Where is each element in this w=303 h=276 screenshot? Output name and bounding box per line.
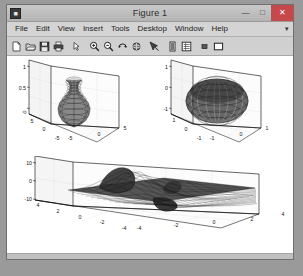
svg-text:0: 0 (29, 178, 32, 184)
menu-item-help[interactable]: Help (207, 22, 231, 36)
svg-text:-1: -1 (197, 135, 202, 141)
svg-text:0: 0 (21, 109, 28, 114)
svg-text:1: 1 (173, 117, 176, 123)
svg-text:-5: -5 (55, 135, 60, 141)
new-figure-icon[interactable] (10, 40, 23, 53)
matlab-app-icon: ■ (10, 8, 21, 19)
window-controls: — □ ✕ (237, 5, 293, 21)
insert-colorbar-icon[interactable] (166, 40, 179, 53)
maximize-icon: □ (260, 9, 265, 17)
menu-bar: File Edit View Insert Tools Desktop Wind… (7, 22, 293, 37)
menu-item-view[interactable]: View (54, 22, 79, 36)
svg-text:5: 5 (31, 118, 34, 124)
svg-text:4: 4 (37, 202, 40, 208)
maximize-button[interactable]: □ (254, 5, 271, 21)
svg-text:1: 1 (266, 125, 269, 131)
svg-text:10: 10 (26, 160, 32, 166)
axes-sphere[interactable]: 1 0 -1 1 0 -1 -1 0 (149, 58, 291, 160)
svg-text:1: 1 (23, 64, 26, 70)
hide-plot-tools-icon[interactable] (198, 40, 211, 53)
figure-window: ■ Figure 1 — □ ✕ File Edit View Insert T… (6, 4, 294, 260)
svg-text:-2: -2 (174, 222, 179, 228)
menu-item-tools[interactable]: Tools (107, 22, 134, 36)
svg-text:4: 4 (282, 211, 285, 217)
title-bar[interactable]: ■ Figure 1 — □ ✕ (7, 5, 293, 22)
svg-text:0: 0 (185, 126, 188, 132)
open-file-icon[interactable] (24, 40, 37, 53)
svg-text:0: 0 (240, 131, 243, 137)
svg-text:2: 2 (251, 216, 254, 222)
menu-item-edit[interactable]: Edit (32, 22, 54, 36)
chevron-down-icon[interactable]: ▾ (285, 22, 289, 36)
svg-text:0: 0 (213, 219, 216, 225)
svg-text:0: 0 (79, 214, 82, 220)
svg-text:0: 0 (43, 126, 46, 132)
svg-text:-10: -10 (25, 196, 33, 202)
svg-text:0: 0 (98, 131, 101, 137)
svg-text:0.5: 0.5 (19, 85, 26, 91)
menu-item-window[interactable]: Window (171, 22, 207, 36)
close-button[interactable]: ✕ (271, 5, 293, 21)
data-cursor-icon[interactable] (148, 40, 161, 53)
minimize-button[interactable]: — (237, 5, 254, 21)
axes-vase[interactable]: 1 0.5 0 5 0 (11, 58, 151, 160)
svg-text:2: 2 (57, 208, 60, 214)
menu-item-insert[interactable]: Insert (79, 22, 107, 36)
edit-plot-icon[interactable] (70, 40, 83, 53)
menu-item-file[interactable]: File (11, 22, 32, 36)
svg-text:-1: -1 (210, 135, 215, 141)
save-figure-icon[interactable] (38, 40, 51, 53)
app-icon-glyph: ■ (13, 10, 17, 17)
svg-text:5: 5 (124, 125, 127, 131)
svg-text:-1: -1 (163, 106, 168, 112)
svg-text:-5: -5 (68, 135, 73, 141)
figure-canvas[interactable]: 1 0.5 0 5 0 (7, 56, 293, 253)
close-icon: ✕ (279, 9, 286, 17)
rotate-3d-icon[interactable] (130, 40, 143, 53)
svg-text:-4: -4 (122, 225, 127, 231)
status-bar (7, 253, 293, 259)
svg-text:0: 0 (165, 85, 168, 91)
svg-text:-2: -2 (100, 219, 105, 225)
insert-legend-icon[interactable] (180, 40, 193, 53)
print-figure-icon[interactable] (52, 40, 65, 53)
menu-item-desktop[interactable]: Desktop (134, 22, 171, 36)
svg-text:-4: -4 (137, 225, 142, 231)
minimize-icon: — (242, 9, 250, 17)
show-plot-tools-icon[interactable] (212, 40, 225, 53)
axes-peaks[interactable]: 10 0 -10 4 2 0 -2 -4 (13, 156, 291, 253)
zoom-in-icon[interactable] (88, 40, 101, 53)
svg-text:1: 1 (165, 64, 168, 70)
tool-bar (7, 37, 293, 56)
zoom-out-icon[interactable] (102, 40, 115, 53)
pan-icon[interactable] (116, 40, 129, 53)
